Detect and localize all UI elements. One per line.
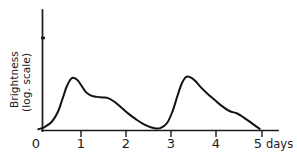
light-curve-figure: 0 1 2 3 4 5 days Brightness (log. scale) bbox=[0, 0, 297, 160]
x-tick-label-4: 4 bbox=[212, 136, 220, 151]
y-axis-title-line1: Brightness bbox=[8, 51, 20, 108]
x-tick-label-2: 2 bbox=[122, 136, 130, 151]
x-tick-label-1: 1 bbox=[77, 136, 85, 151]
x-tick-label-5: 5 bbox=[254, 136, 262, 151]
x-axis-unit-label: days bbox=[266, 137, 293, 151]
x-tick-label-3: 3 bbox=[167, 136, 175, 151]
y-axis-title-line2: (log. scale) bbox=[20, 53, 32, 112]
plot-area: 0 1 2 3 4 5 days Brightness (log. scale) bbox=[0, 0, 297, 160]
x-tick-label-0: 0 bbox=[32, 136, 40, 151]
brightness-curve bbox=[38, 76, 259, 129]
